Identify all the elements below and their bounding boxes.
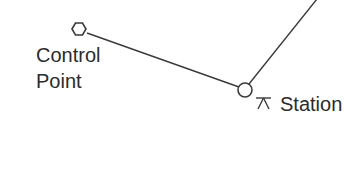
hexagon-icon (72, 23, 86, 35)
control-point-label-line2: Point (36, 70, 82, 92)
station-circle-icon (238, 83, 252, 97)
control-to-station-line (87, 33, 239, 87)
station-label: Station (280, 93, 342, 115)
survey-diagram: Control Point Station (0, 0, 351, 184)
tripod-icon (256, 98, 271, 109)
control-point-label-line1: Control (36, 44, 100, 66)
station-to-offscreen-line (249, 0, 317, 84)
